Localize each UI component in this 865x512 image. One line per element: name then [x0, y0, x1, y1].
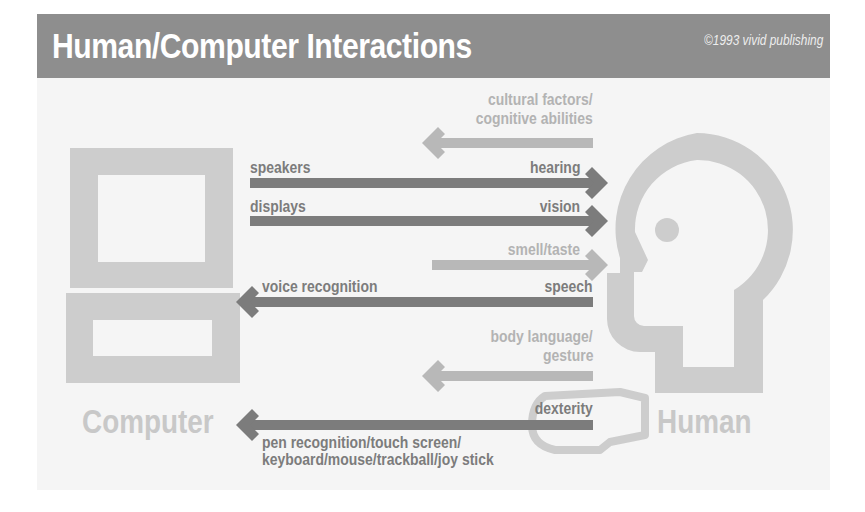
- label-vision: vision: [540, 198, 580, 215]
- label-hearing: hearing: [530, 159, 580, 176]
- label-input-devices-line1: pen recognition/touch screen/: [262, 434, 461, 451]
- label-displays: displays: [250, 198, 306, 215]
- label-cultural-factors: cultural factors/: [488, 91, 593, 108]
- human-label: Human: [657, 402, 751, 441]
- label-speech: speech: [545, 278, 593, 295]
- label-gesture: gesture: [543, 347, 593, 364]
- label-speakers: speakers: [250, 159, 310, 176]
- computer-icon: [66, 148, 240, 383]
- label-voice-recognition: voice recognition: [262, 278, 377, 295]
- label-dexterity: dexterity: [535, 400, 593, 417]
- label-cognitive-abilities: cognitive abilities: [476, 110, 593, 127]
- label-input-devices-line2: keyboard/mouse/trackball/joy stick: [262, 451, 494, 468]
- label-body-language: body language/: [491, 328, 593, 345]
- arrow-cultural-factors: [422, 127, 593, 159]
- label-smell-taste: smell/taste: [508, 241, 580, 258]
- computer-label: Computer: [82, 402, 214, 441]
- eye-icon: [655, 218, 679, 242]
- human-head-icon: [607, 133, 793, 393]
